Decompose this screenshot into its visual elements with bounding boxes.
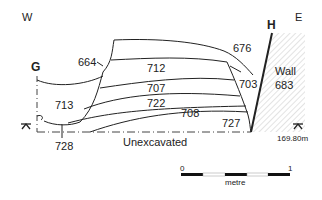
context-712: 712 bbox=[147, 62, 165, 74]
wall-number: 683 bbox=[275, 79, 293, 91]
section-drawing: W E G H 664 712 676 703 713 707 722 708 … bbox=[0, 0, 322, 200]
datum-value: 169.80m bbox=[277, 134, 308, 143]
unexcavated-label: Unexcavated bbox=[123, 136, 187, 148]
context-703: 703 bbox=[239, 78, 257, 90]
section-point-g: G bbox=[31, 60, 40, 74]
boundary-712 bbox=[111, 58, 227, 62]
boundary-707 bbox=[100, 78, 234, 88]
context-722: 722 bbox=[147, 97, 165, 109]
scale-bar bbox=[181, 173, 290, 176]
hook-left bbox=[37, 115, 42, 120]
compass-east: E bbox=[295, 11, 302, 23]
context-676: 676 bbox=[233, 42, 251, 54]
context-708: 708 bbox=[181, 107, 199, 119]
context-664: 664 bbox=[78, 56, 96, 68]
boundary-713-top bbox=[37, 76, 103, 85]
scale-end: 1 bbox=[288, 164, 293, 173]
scale-start: 0 bbox=[180, 164, 185, 173]
datum-marker-left bbox=[21, 124, 31, 129]
section-point-h: H bbox=[267, 18, 276, 32]
wall-label: Wall bbox=[275, 65, 296, 77]
context-713: 713 bbox=[55, 99, 73, 111]
compass-west: W bbox=[22, 11, 33, 23]
context-707: 707 bbox=[147, 82, 165, 94]
context-727: 727 bbox=[222, 117, 240, 129]
context-728: 728 bbox=[55, 140, 73, 152]
leader-664 bbox=[97, 62, 103, 66]
leader-676 bbox=[230, 66, 241, 72]
scale-unit: metre bbox=[225, 178, 246, 187]
cut-664 bbox=[44, 40, 114, 125]
